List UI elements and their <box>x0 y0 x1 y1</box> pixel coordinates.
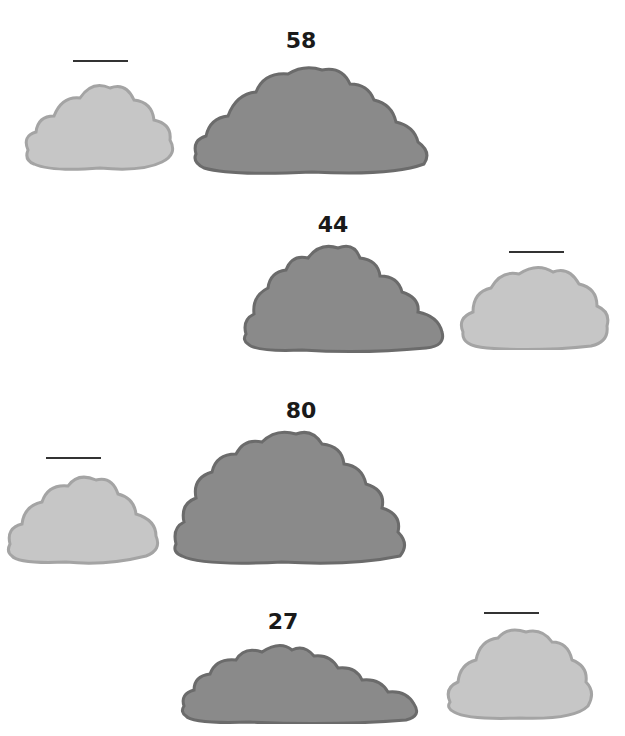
answer-blank-row3[interactable] <box>46 457 101 459</box>
answer-blank-row4[interactable] <box>484 612 539 614</box>
number-label-row4: 27 <box>253 609 313 634</box>
light-bush-row3 <box>6 470 162 566</box>
dark-bush-row2 <box>242 242 446 354</box>
answer-blank-row1[interactable] <box>73 60 128 62</box>
light-bush-row2 <box>457 262 611 350</box>
number-label-row3: 80 <box>271 398 331 423</box>
dark-bush-row1 <box>192 64 432 176</box>
dark-bush-row4 <box>180 640 422 724</box>
answer-blank-row2[interactable] <box>509 251 564 253</box>
light-bush-row1 <box>22 76 178 172</box>
dark-bush-row3 <box>172 428 410 566</box>
number-label-row2: 44 <box>303 212 363 237</box>
number-label-row1: 58 <box>271 28 331 53</box>
light-bush-row4 <box>444 626 596 722</box>
